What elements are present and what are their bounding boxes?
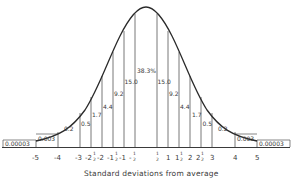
normal-distribution-diagram: 0.00003 0.003 0.2 0.5 1.7 4.4 9.2 15.0 3… — [0, 0, 291, 182]
band-label-left-5: 4.4 — [103, 103, 113, 110]
tick-label: 3 — [210, 154, 214, 162]
tick-fraction-den: 2 — [133, 157, 136, 162]
tick-label: -5 — [32, 154, 39, 162]
tick-fraction-num: 1 — [201, 151, 204, 156]
band-label-left-6: 9.2 — [114, 90, 124, 97]
tick-fraction-den: 2 — [156, 157, 159, 162]
tick-fraction-num: 1 — [115, 151, 118, 156]
tick-label: 5 — [255, 154, 259, 162]
x-axis-caption: Standard deviations from average — [84, 169, 219, 178]
tick-label: -2 — [85, 154, 92, 162]
band-label-right-5: 4.4 — [180, 103, 190, 110]
band-label-left-0: 0.00003 — [5, 140, 30, 147]
band-label-right-2: 0.2 — [218, 125, 228, 132]
band-label-right-6: 9.2 — [169, 90, 179, 97]
band-label-left-3: 0.5 — [81, 120, 91, 127]
tick-label: - — [129, 154, 132, 162]
tick-label: -1 — [119, 154, 126, 162]
band-label-left-7: 15.0 — [125, 78, 139, 85]
band-label-center: 38.3% — [137, 67, 156, 74]
tick-fraction-den: 2 — [180, 157, 183, 162]
band-label-right-1: 0.003 — [237, 135, 254, 142]
bell-curve — [36, 7, 257, 141]
tick-label: -2 — [97, 154, 104, 162]
tick-label: 2 — [188, 154, 192, 162]
band-label-right-7: 15.0 — [158, 78, 172, 85]
tick-fraction-den: 2 — [201, 157, 204, 162]
tick-fraction-num: 1 — [180, 151, 183, 156]
tick-fraction-num: 1 — [133, 151, 136, 156]
tick-label: 1 — [175, 154, 179, 162]
tick-label: -3 — [75, 154, 82, 162]
tick-fraction-den: 2 — [93, 157, 96, 162]
tick-label: 4 — [233, 154, 238, 162]
band-label-left-2: 0.2 — [64, 125, 74, 132]
tick-label: 1 — [166, 154, 170, 162]
x-axis-ticks: -5 -4 -3 -2 1 2 -2 -1 1 2 -1 - 1 2 1 2 1… — [32, 151, 259, 162]
band-label-right-0: 0.00003 — [259, 140, 284, 147]
band-label-left-1: 0.003 — [38, 135, 55, 142]
tick-fraction-den: 2 — [115, 157, 118, 162]
band-label-left-4: 1.7 — [92, 111, 102, 118]
band-label-right-4: 1.7 — [192, 111, 202, 118]
tick-label: -1 — [107, 154, 114, 162]
band-label-right-3: 0.5 — [203, 120, 213, 127]
tick-fraction-num: 1 — [93, 151, 96, 156]
tick-fraction-num: 1 — [156, 151, 159, 156]
tick-label: -4 — [54, 154, 62, 162]
tick-label: 2 — [196, 154, 200, 162]
